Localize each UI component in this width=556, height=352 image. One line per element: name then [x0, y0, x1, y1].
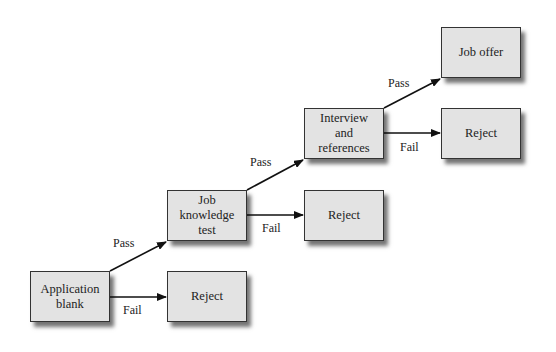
node-label: Reject	[328, 208, 360, 223]
node-reject-1: Reject	[167, 271, 247, 322]
node-label: Reject	[465, 126, 497, 141]
node-reject-2: Reject	[304, 190, 384, 241]
node-label: Application blank	[40, 282, 99, 312]
flowchart-canvas: Application blank Reject Job knowledge t…	[0, 0, 556, 352]
edge-label-pass-2: Pass	[250, 155, 271, 170]
edge-label-fail-2: Fail	[262, 221, 281, 236]
node-job-knowledge-test: Job knowledge test	[167, 190, 247, 241]
edge-label-pass-3: Pass	[388, 76, 409, 91]
node-label: Reject	[191, 289, 223, 304]
edge-label-pass-1: Pass	[113, 236, 134, 251]
node-label: Interview and references	[318, 111, 369, 156]
node-job-offer: Job offer	[441, 27, 521, 78]
node-interview-references: Interview and references	[304, 108, 384, 159]
node-reject-3: Reject	[441, 108, 521, 159]
node-application-blank: Application blank	[30, 271, 110, 322]
node-label: Job offer	[459, 45, 504, 60]
node-label: Job knowledge test	[180, 193, 235, 238]
edge-label-fail-3: Fail	[400, 140, 419, 155]
edge-label-fail-1: Fail	[123, 303, 142, 318]
